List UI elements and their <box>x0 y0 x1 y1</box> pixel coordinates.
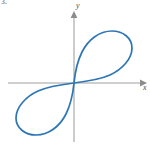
y-axis-label: y <box>76 2 80 10</box>
plot-canvas <box>0 0 150 146</box>
figure-container: 3. y x <box>0 0 150 146</box>
x-axis-label: x <box>143 84 147 92</box>
y-axis-arrowhead <box>71 11 78 18</box>
